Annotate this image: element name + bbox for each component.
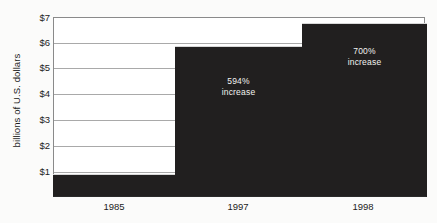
bar-1997: 594% increase <box>175 46 302 197</box>
chart-figure: billions of U.S. dollars $7 $6 $5 $4 $3 … <box>0 0 437 223</box>
y-tick-label: $7 <box>16 12 50 23</box>
y-tick-label: $4 <box>16 88 50 99</box>
bar-annotation-percent: 594% <box>175 76 302 87</box>
x-tick-label-1985: 1985 <box>103 201 124 212</box>
y-tick-label: $5 <box>16 62 50 73</box>
bar-1998: 700% increase <box>302 23 427 197</box>
bar-annotation-1998: 700% increase <box>302 46 427 67</box>
y-tick-label: $6 <box>16 37 50 48</box>
bar-annotation-percent: 700% <box>302 46 427 57</box>
bar-1985 <box>53 174 175 197</box>
x-tick-label-1998: 1998 <box>352 201 373 212</box>
y-tick-label: $3 <box>16 114 50 125</box>
x-axis-line <box>53 196 426 197</box>
y-tick-label: $2 <box>16 140 50 151</box>
y-tick-label: $1 <box>16 166 50 177</box>
y-axis-tick-labels: $7 $6 $5 $4 $3 $2 $1 <box>14 0 50 223</box>
bar-annotation-word: increase <box>302 57 427 68</box>
bar-annotation-word: increase <box>175 87 302 98</box>
bar-annotation-1997: 594% increase <box>175 76 302 97</box>
plot-area: 594% increase 700% increase <box>53 17 425 196</box>
x-tick-label-1997: 1997 <box>227 201 248 212</box>
